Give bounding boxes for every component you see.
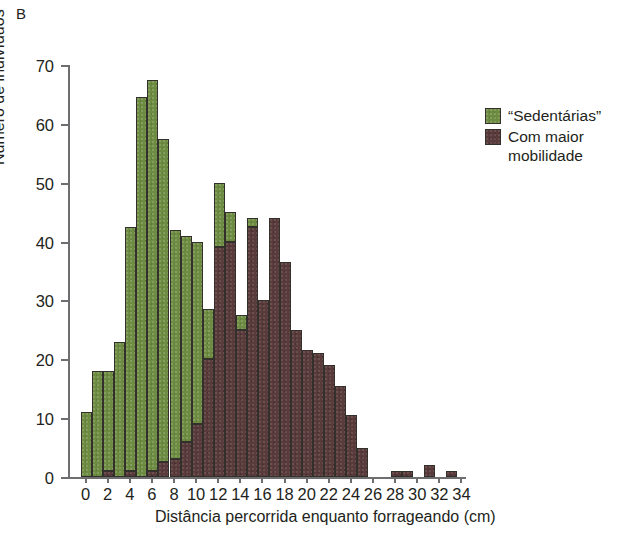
bar-segment-mobile (147, 471, 158, 477)
x-axis-tick-label: 4 (125, 485, 134, 504)
x-axis-tick-label: 30 (408, 485, 426, 504)
x-axis-tick-label: 0 (81, 485, 90, 504)
x-axis-tick (195, 477, 197, 483)
bar-segment-mobile (247, 227, 258, 477)
histogram-bar (357, 448, 368, 477)
histogram-bar (313, 353, 324, 477)
x-axis-tick (416, 477, 418, 483)
x-axis-tick-label: 16 (253, 485, 271, 504)
bar-segment-mobile (170, 459, 181, 477)
bar-segment-mobile (158, 462, 169, 477)
histogram-bar (269, 218, 280, 477)
histogram-bar (125, 227, 136, 477)
y-axis-tick: 60 (61, 124, 68, 126)
histogram-bar (103, 371, 114, 477)
x-axis-tick-label: 22 (320, 485, 338, 504)
histogram-bar (280, 262, 291, 477)
bar-segment-mobile (181, 442, 192, 477)
x-axis-tick (129, 477, 131, 483)
histogram-bar (170, 230, 181, 477)
bar-segment-sedentary (114, 342, 125, 477)
y-axis-tick: 10 (61, 418, 68, 420)
x-axis-tick-label: 26 (364, 485, 382, 504)
bar-segment-mobile (446, 471, 457, 477)
histogram-bar (424, 465, 435, 477)
x-axis-line (68, 477, 466, 479)
x-axis-tick-label: 8 (169, 485, 178, 504)
bar-segment-mobile (424, 465, 435, 477)
x-axis-tick (372, 477, 374, 483)
bar-segment-mobile (192, 424, 203, 477)
y-axis-tick-label: 70 (36, 57, 54, 76)
x-axis-tick (328, 477, 330, 483)
histogram-bar (136, 97, 147, 477)
histogram-bar (147, 80, 158, 477)
bar-segment-mobile (214, 247, 225, 477)
bar-segment-mobile (402, 471, 413, 477)
x-axis-tick-label: 12 (209, 485, 227, 504)
bar-segment-mobile (335, 386, 346, 477)
histogram-bar (214, 183, 225, 477)
legend-swatch-brown (485, 129, 501, 145)
x-axis-tick (306, 477, 308, 483)
legend: “Sedentárias”Com maior mobilidade (485, 106, 620, 167)
y-axis-tick-label: 20 (36, 351, 54, 370)
histogram-bar (446, 471, 457, 477)
bar-segment-mobile (103, 471, 114, 477)
y-axis-tick: 0 (61, 477, 68, 479)
x-axis-tick (261, 477, 263, 483)
histogram-bar (258, 300, 269, 477)
histogram-bar (236, 315, 247, 477)
x-axis-title: Distância percorrida enquanto forrageand… (155, 508, 496, 526)
histogram-bar (225, 212, 236, 477)
histogram-bar (302, 350, 313, 477)
bar-segment-mobile (258, 300, 269, 477)
y-axis-tick: 70 (61, 65, 68, 67)
bar-segment-mobile (324, 365, 335, 477)
y-axis-tick: 40 (61, 242, 68, 244)
bar-segment-sedentary (158, 139, 169, 463)
x-axis-tick-label: 24 (342, 485, 360, 504)
x-axis-tick-label: 6 (147, 485, 156, 504)
bar-segment-sedentary (103, 371, 114, 471)
bars-group (70, 65, 466, 477)
histogram-bar (324, 365, 335, 477)
bar-segment-sedentary (170, 230, 181, 460)
panel-label: B (16, 5, 27, 22)
bar-segment-mobile (302, 350, 313, 477)
bar-segment-sedentary (225, 212, 236, 241)
bar-segment-mobile (346, 415, 357, 477)
x-axis-tick-label: 10 (187, 485, 205, 504)
bar-segment-mobile (291, 330, 302, 477)
histogram-bar (291, 330, 302, 477)
plot-area: 010203040506070 024681012141618202224262… (68, 65, 466, 477)
x-axis-tick (173, 477, 175, 483)
histogram-bar (181, 236, 192, 477)
bar-segment-sedentary (236, 315, 247, 330)
bar-segment-mobile (203, 359, 214, 477)
bar-segment-mobile (269, 218, 280, 477)
bar-segment-mobile (391, 471, 402, 477)
histogram-bar (81, 412, 92, 477)
x-axis-tick (438, 477, 440, 483)
x-axis-tick (107, 477, 109, 483)
y-axis-tick-label: 10 (36, 410, 54, 429)
histogram-bar (92, 371, 103, 477)
legend-item: Com maior mobilidade (485, 127, 620, 165)
legend-item-label: Com maior mobilidade (508, 127, 620, 165)
bar-segment-sedentary (147, 80, 158, 471)
y-axis-tick-label: 0 (45, 469, 54, 488)
x-axis-tick (151, 477, 153, 483)
bar-segment-sedentary (203, 309, 214, 359)
bar-segment-sedentary (136, 97, 147, 477)
bar-segment-mobile (225, 242, 236, 477)
x-axis-tick-label: 20 (298, 485, 316, 504)
bar-segment-mobile (313, 353, 324, 477)
y-axis-tick-label: 60 (36, 115, 54, 134)
bar-segment-sedentary (92, 371, 103, 477)
bar-segment-sedentary (125, 227, 136, 471)
x-axis-tick (239, 477, 241, 483)
y-axis-tick-label: 50 (36, 174, 54, 193)
histogram-bar (402, 471, 413, 477)
x-axis-tick (217, 477, 219, 483)
